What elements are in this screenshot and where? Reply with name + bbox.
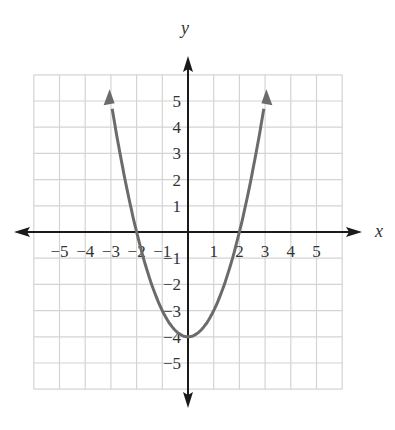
y-tick-label: 5 — [173, 92, 182, 111]
y-axis-label: y — [179, 18, 189, 38]
axes — [14, 56, 362, 408]
coordinate-plane: −5−4−3−2−11234554321−1−2−3−4−5 x y — [0, 0, 395, 430]
x-tick-label: 3 — [261, 242, 270, 261]
x-tick-label: −5 — [50, 242, 68, 261]
curve-right-arrow-icon — [261, 89, 272, 105]
y-tick-label: −5 — [163, 354, 181, 373]
y-tick-label: 1 — [173, 197, 182, 216]
y-tick-label: 2 — [173, 171, 182, 190]
x-tick-label: −4 — [76, 242, 95, 261]
y-tick-label: −1 — [163, 249, 181, 268]
x-tick-label: 1 — [209, 242, 218, 261]
y-tick-label: 3 — [173, 144, 182, 163]
curve-left-arrow-icon — [104, 89, 115, 105]
x-axis-label: x — [374, 221, 383, 241]
x-tick-label: 5 — [312, 242, 321, 261]
y-tick-label: −4 — [163, 328, 182, 347]
x-tick-label: 4 — [287, 242, 296, 261]
y-tick-label: −2 — [163, 275, 181, 294]
y-tick-label: 4 — [173, 118, 182, 137]
x-tick-label: −3 — [102, 242, 120, 261]
